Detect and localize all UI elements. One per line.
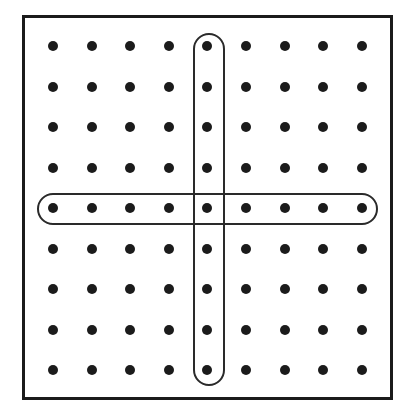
highlight-layer	[25, 18, 390, 397]
row-highlight	[37, 193, 378, 225]
figure-root	[0, 0, 407, 414]
array-border	[22, 15, 393, 400]
